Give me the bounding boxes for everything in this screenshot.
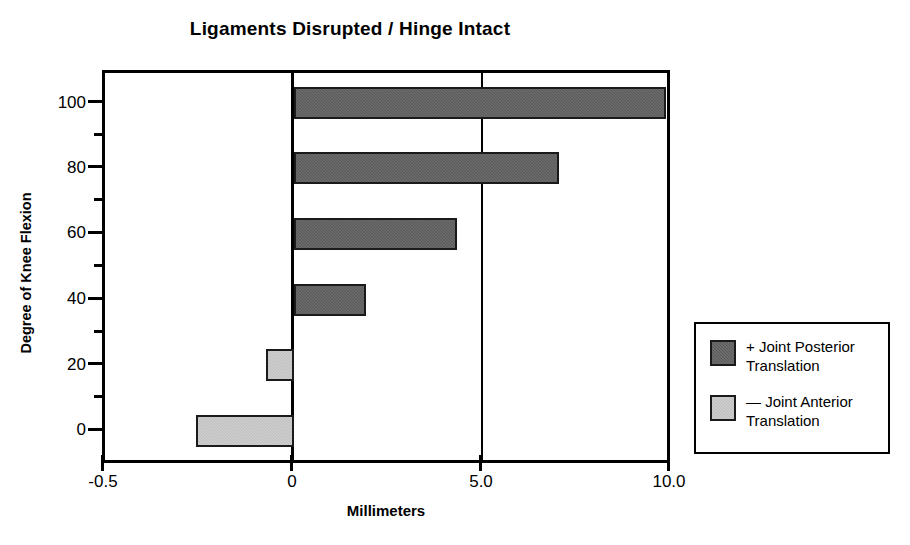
bar-flexion-20 [266, 349, 294, 381]
legend-label-posterior: + Joint Posterior Translation [746, 338, 882, 376]
legend-label-posterior-line2: Translation [746, 357, 820, 374]
y-tick-label-80: 80 [38, 159, 86, 176]
x-tick-label-5: 5.0 [441, 472, 521, 492]
legend-label-anterior: — Joint Anterior Translation [746, 393, 882, 431]
bar-flexion-40 [294, 284, 366, 316]
legend-swatch-anterior-icon [710, 395, 736, 421]
legend-swatch-posterior-icon [710, 340, 736, 366]
bar-flexion-100 [294, 87, 666, 119]
legend-label-anterior-line2: Translation [746, 412, 820, 429]
legend-label-anterior-line1: — Joint Anterior [746, 393, 853, 410]
y-tick-label-60: 60 [38, 224, 86, 241]
x-tick-label-0: 0 [252, 472, 332, 492]
x-tick-label-10: 10.0 [629, 472, 709, 492]
bar-flexion-0 [196, 415, 294, 447]
y-axis-title: Degree of Knee Flexion [18, 163, 34, 383]
x-tick--0.5 [101, 455, 104, 471]
bar-flexion-80 [294, 152, 559, 184]
bar-flexion-60 [294, 218, 457, 250]
zero-axis-line [291, 73, 294, 460]
x-tick-0 [290, 455, 293, 471]
y-tick-label-100: 100 [38, 94, 86, 111]
plot-area [102, 70, 670, 463]
y-tick-label-40: 40 [38, 290, 86, 307]
x-axis-title: Millimeters [102, 502, 670, 519]
legend-item-anterior: — Joint Anterior Translation [710, 393, 882, 431]
chart-title: Ligaments Disrupted / Hinge Intact [0, 18, 700, 40]
x-tick-5 [479, 455, 482, 471]
y-tick-label-20: 20 [38, 356, 86, 373]
x-tick-10 [667, 455, 670, 471]
legend-label-posterior-line1: + Joint Posterior [746, 338, 855, 355]
legend: + Joint Posterior Translation — Joint An… [694, 322, 890, 454]
y-tick-label-0: 0 [38, 421, 86, 438]
legend-item-posterior: + Joint Posterior Translation [710, 338, 882, 376]
gridline-5mm [481, 73, 483, 460]
x-tick-label--0.5: -0.5 [63, 472, 143, 492]
